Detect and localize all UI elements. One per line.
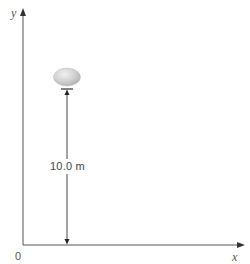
x-axis [23,242,245,248]
x-axis-arrowhead-icon [237,242,245,248]
y-axis-label: y [11,7,16,19]
coordinate-diagram [0,0,250,264]
arrowhead-up-icon [65,90,70,96]
rock-object [54,68,81,86]
y-axis [20,8,26,245]
arrowhead-down-icon [65,239,70,245]
height-label: 10.0 m [50,159,85,174]
y-axis-arrowhead-icon [20,8,26,16]
x-axis-label: x [232,251,237,263]
origin-label: 0 [15,251,21,262]
